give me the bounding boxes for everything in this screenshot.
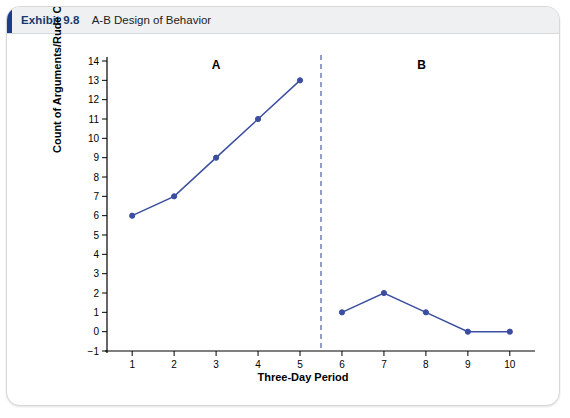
y-tick-label: 12 (88, 94, 100, 105)
y-tick-label: 5 (93, 230, 99, 241)
x-tick-label: 9 (465, 359, 471, 370)
data-point (130, 213, 135, 218)
chart-svg: −10123456789101112131412345678910AB (7, 33, 559, 405)
y-tick-label: −1 (88, 346, 100, 357)
series-line-1 (132, 80, 300, 215)
y-tick-label: 13 (88, 75, 100, 86)
y-tick-label: 8 (93, 172, 99, 183)
x-tick-label: 6 (339, 359, 345, 370)
y-tick-label: 10 (88, 133, 100, 144)
y-tick-label: 6 (93, 210, 99, 221)
exhibit-title: A-B Design of Behavior (92, 14, 212, 26)
screenshot-root: Exhibit 9.8 A-B Design of Behavior Count… (0, 0, 570, 418)
data-point (423, 310, 428, 315)
data-point (255, 116, 260, 121)
phase-b-label: B (417, 58, 426, 72)
y-tick-label: 9 (93, 152, 99, 163)
y-tick-label: 3 (93, 268, 99, 279)
exhibit-header: Exhibit 9.8 A-B Design of Behavior (7, 7, 559, 34)
x-tick-label: 1 (129, 359, 135, 370)
x-tick-label: 5 (297, 359, 303, 370)
data-point (465, 329, 470, 334)
data-point (297, 78, 302, 83)
x-tick-label: 2 (171, 359, 177, 370)
data-point (339, 310, 344, 315)
y-tick-label: 0 (93, 326, 99, 337)
chart-area: Count of Arguments/Rude Comments Three-D… (7, 33, 559, 405)
data-point (507, 329, 512, 334)
x-tick-label: 8 (423, 359, 429, 370)
x-tick-label: 7 (381, 359, 387, 370)
x-tick-label: 3 (213, 359, 219, 370)
x-tick-label: 10 (504, 359, 516, 370)
y-tick-label: 4 (93, 249, 99, 260)
page-footer-sliver (10, 406, 550, 416)
y-tick-label: 14 (88, 56, 100, 67)
data-point (172, 194, 177, 199)
y-tick-label: 2 (93, 288, 99, 299)
exhibit-card: Exhibit 9.8 A-B Design of Behavior Count… (6, 6, 560, 406)
data-point (214, 155, 219, 160)
y-tick-label: 1 (93, 307, 99, 318)
y-tick-label: 11 (89, 114, 100, 125)
x-tick-label: 4 (255, 359, 261, 370)
header-accent-bar (7, 7, 12, 33)
data-point (381, 290, 386, 295)
y-tick-label: 7 (93, 191, 99, 202)
phase-a-label: A (212, 58, 221, 72)
